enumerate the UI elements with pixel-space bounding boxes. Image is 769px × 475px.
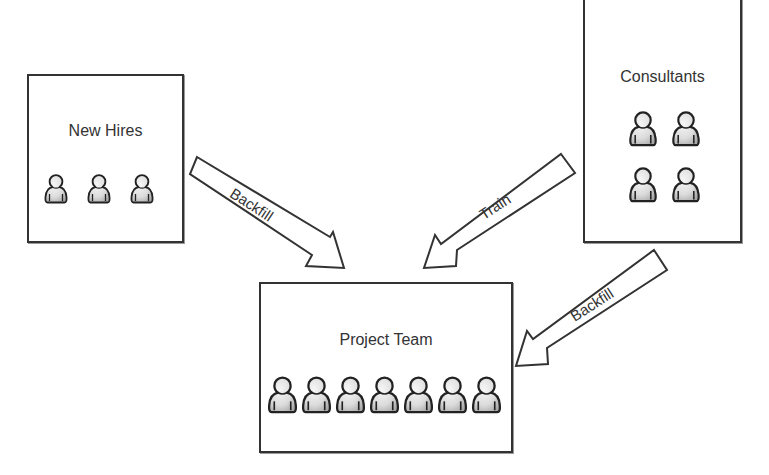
project-team-box: Project Team	[259, 282, 513, 453]
person-icon	[671, 111, 701, 147]
person-icon	[471, 376, 502, 414]
project-team-people	[267, 376, 502, 414]
consultants-people-row-2	[628, 167, 701, 203]
person-icon	[267, 376, 298, 414]
person-icon	[87, 174, 111, 204]
person-icon	[437, 376, 468, 414]
diagram-canvas: Backfill Train Backfill New Hires Consul…	[0, 0, 769, 475]
person-icon	[403, 376, 434, 414]
consultants-people-row-1	[628, 111, 701, 147]
person-icon	[671, 167, 701, 203]
person-icon	[130, 174, 154, 204]
person-icon	[628, 167, 658, 203]
person-icon	[369, 376, 400, 414]
consultants-label: Consultants	[585, 68, 740, 86]
person-icon	[301, 376, 332, 414]
new-hires-box: New Hires	[27, 74, 184, 243]
new-hires-people	[44, 174, 154, 204]
person-icon	[628, 111, 658, 147]
new-hires-label: New Hires	[29, 122, 182, 140]
project-team-label: Project Team	[261, 331, 511, 349]
person-icon	[335, 376, 366, 414]
consultants-box: Consultants	[583, 0, 742, 243]
person-icon	[44, 174, 68, 204]
